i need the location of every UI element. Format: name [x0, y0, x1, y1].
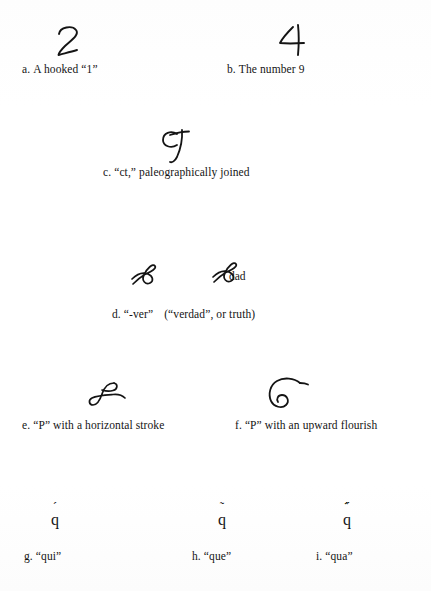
caption-f: f.“P” with an upward flourish: [235, 418, 377, 432]
caption-b: b.The number 9: [227, 62, 305, 76]
hooked-one-glyph: [52, 24, 92, 60]
caption-h-label: h.: [192, 550, 201, 562]
caption-d-secondary-text: (“verdad”, or truth): [164, 308, 255, 320]
caption-g: g.“qui”: [24, 549, 61, 563]
caption-i-label: i.: [316, 550, 322, 562]
caption-e-text: “P” with a horizontal stroke: [33, 419, 164, 431]
q-double-tilde-glyph: ᷀᷀ q: [335, 503, 359, 528]
caption-g-text: “qui”: [36, 550, 61, 562]
caption-c-label: c.: [103, 166, 111, 178]
caption-i: i.“qua”: [316, 549, 353, 563]
ct-ligature-glyph: [157, 126, 201, 168]
caption-d-label: d.: [112, 308, 121, 320]
ver-abbreviation-glyph: [128, 258, 168, 292]
caption-c-text: “ct,” paleographically joined: [114, 166, 249, 178]
caption-b-text: The number 9: [239, 63, 305, 75]
caption-f-label: f.: [235, 419, 242, 431]
caption-f-text: “P” with an upward flourish: [245, 419, 377, 431]
caption-b-label: b.: [227, 63, 236, 75]
caption-e-label: e.: [22, 419, 30, 431]
caption-c: c.“ct,” paleographically joined: [103, 165, 250, 179]
q-acute-base: q: [43, 512, 67, 528]
caption-e: e.“P” with a horizontal stroke: [22, 418, 164, 432]
caption-a-label: a.: [22, 63, 30, 75]
q-double-tilde-base: q: [335, 512, 359, 528]
caption-d: d.“-ver”(“verdad”, or truth): [112, 307, 255, 321]
q-tilde-glyph: ˜ q: [210, 503, 234, 528]
p-horizontal-stroke-glyph: [82, 380, 132, 412]
inline-word-dad: dad: [229, 270, 246, 282]
p-upward-flourish-glyph: [264, 375, 310, 415]
figure-page: a.A hooked “1” b.The number 9 c.“ct,” pa…: [0, 0, 431, 591]
number-nine-glyph: [277, 22, 319, 60]
caption-i-text: “qua”: [325, 550, 352, 562]
caption-h-text: “que”: [204, 550, 231, 562]
caption-g-label: g.: [24, 550, 33, 562]
caption-a-text: A hooked “1”: [33, 63, 97, 75]
q-tilde-base: q: [210, 512, 234, 528]
caption-a: a.A hooked “1”: [22, 62, 98, 76]
caption-h: h.“que”: [192, 549, 231, 563]
q-acute-glyph: ´ q: [43, 503, 67, 528]
caption-d-text: “-ver”: [124, 308, 153, 320]
